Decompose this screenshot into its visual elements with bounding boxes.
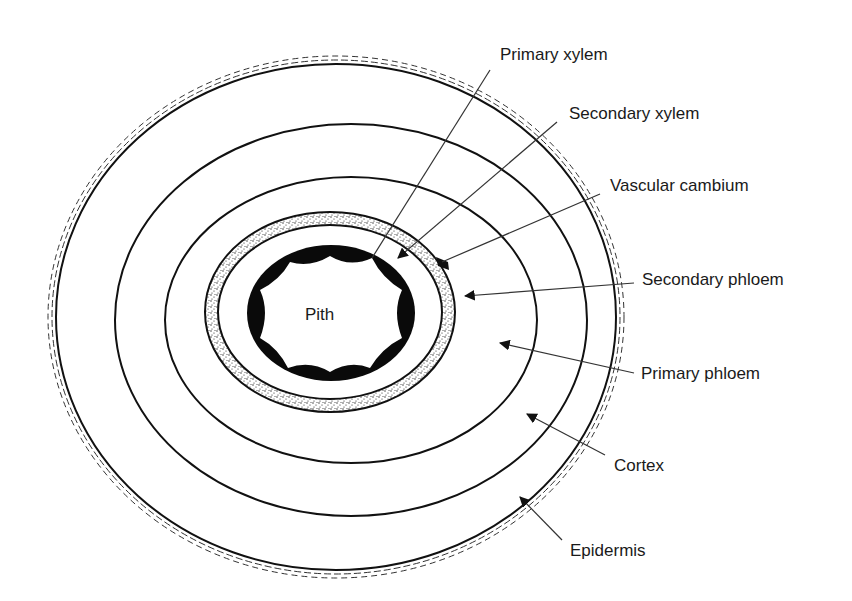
label-primary-xylem: Primary xylem	[500, 46, 608, 63]
leader-epidermis	[520, 497, 562, 540]
stem-cross-section-diagram: Pith Primary xylem Secondary xylem Vascu…	[0, 0, 852, 601]
leader-secondary-phloem	[465, 283, 634, 296]
label-primary-phloem: Primary phloem	[641, 365, 760, 382]
label-secondary-phloem: Secondary phloem	[642, 271, 784, 288]
diagram-canvas	[0, 0, 852, 601]
leader-vascular-cambium	[442, 194, 600, 262]
label-epidermis: Epidermis	[570, 542, 646, 559]
label-vascular-cambium: Vascular cambium	[610, 177, 749, 194]
label-secondary-xylem: Secondary xylem	[569, 105, 699, 122]
pith-label: Pith	[305, 306, 334, 323]
leader-secondary-xylem	[398, 122, 557, 258]
label-cortex: Cortex	[614, 457, 664, 474]
